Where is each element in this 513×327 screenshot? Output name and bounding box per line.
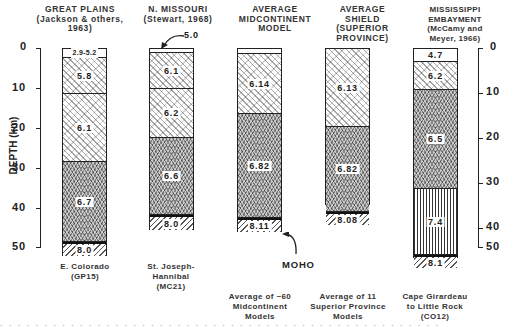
right-tick-label: 0 (490, 40, 497, 52)
right-tick-label: 30 (486, 175, 500, 187)
right-tick (478, 93, 483, 94)
caption-line: Superior Province (298, 302, 398, 312)
velocity-label: 8.0 (75, 245, 94, 255)
layer: 6.82 (238, 114, 281, 218)
layer-mantle: 8.0 (150, 215, 193, 230)
right-tick (478, 228, 483, 229)
velocity-label: 8.11 (247, 221, 271, 231)
caption-line: to Little Rock (385, 302, 485, 312)
caption-mississippi: Cape Girardeau to Little Rock (CO12) (385, 292, 485, 322)
caption-line: St. Joseph- (121, 262, 221, 272)
velocity-label: 6.5 (426, 134, 445, 144)
right-tick (478, 183, 483, 184)
velocity-label: 8.0 (162, 219, 181, 229)
layer: 7.4 (414, 189, 457, 255)
caption-shield: Average of 11 Superior Province Models (298, 292, 398, 322)
velocity-label: 6.2 (162, 108, 181, 118)
velocity-label: 7.4 (426, 217, 445, 227)
caption-line: (MC21) (121, 282, 221, 292)
velocity-label: 8.08 (335, 215, 360, 225)
caption-line: Average of 11 (298, 292, 398, 302)
layer-mantle: 8.0 (63, 242, 106, 256)
title-line: 1963) (25, 24, 135, 34)
title-line: PROVINCE) (310, 34, 415, 44)
right-tick (478, 48, 483, 49)
caption-n-missouri: St. Joseph- Hannibal (MC21) (121, 262, 221, 292)
right-tick-label: 50 (486, 240, 500, 252)
layer: 6.5 (414, 90, 457, 189)
caption-line: E. Colorado (35, 262, 135, 272)
velocity-label: 6.13 (335, 83, 360, 93)
layer: 6.13 (326, 49, 369, 127)
annotation-5-0: 5.0 (184, 30, 199, 40)
layer: 6.1 (150, 53, 193, 89)
left-tick (36, 247, 41, 248)
truncated-footer-text: · · · · · · · · · · · · · · · · · · · · … (0, 321, 513, 327)
layer-mantle: 8.08 (326, 212, 369, 225)
title-line: MISSISSIPPI (405, 5, 505, 15)
left-tick-label: 10 (12, 81, 26, 93)
layer: 6.7 (63, 162, 106, 242)
velocity-label: 6.6 (162, 171, 181, 181)
left-tick-label: 0 (20, 40, 27, 52)
velocity-label: 6.7 (75, 197, 94, 207)
moho-label: MOHO (282, 259, 315, 270)
caption-line: (GP15) (35, 272, 135, 282)
left-tick (36, 168, 41, 169)
arrow-icon (158, 32, 186, 50)
right-tick-label: 20 (486, 130, 500, 142)
column-title-great-plains: GREAT PLAINS (Jackson & others, 1963) (25, 5, 135, 34)
column-shield: 6.13 6.82 8.08 (325, 48, 370, 205)
layer: 5.8 (63, 58, 106, 94)
left-tick-label: 30 (12, 161, 26, 173)
title-line: (Stewart, 1968) (128, 15, 228, 25)
layer: 6.2 (150, 89, 193, 138)
layer: 6.1 (63, 94, 106, 162)
velocity-label: 6.1 (162, 66, 181, 76)
caption-midcontinent: Average of ~60 Midcontinent Models (210, 292, 310, 322)
caption-line: Cape Girardeau (385, 292, 485, 302)
left-tick (36, 208, 41, 209)
left-tick-label: 40 (12, 201, 26, 213)
left-tick-label: 20 (12, 121, 26, 133)
moho-arrow-icon (282, 232, 302, 256)
layer: 6.14 (238, 54, 281, 114)
velocity-label: 6.2 (426, 71, 445, 81)
layer: 6.2 (414, 62, 457, 90)
layer: 2.9-5.2 (63, 49, 106, 58)
layer-mantle: 8.1 (414, 255, 457, 268)
layer: 6.6 (150, 138, 193, 215)
caption-line: Average of ~60 (210, 292, 310, 302)
caption-line: Midcontinent (210, 302, 310, 312)
column-title-n-missouri: N. MISSOURI (Stewart, 1968) (128, 5, 228, 24)
column-n-missouri: 6.1 6.2 6.6 8.0 (149, 48, 194, 230)
caption-line: Hannibal (121, 272, 221, 282)
left-tick-label: 50 (12, 240, 26, 252)
velocity-label: 4.7 (426, 50, 445, 60)
left-axis-line (40, 48, 41, 248)
column-title-shield: AVERAGE SHIELD (SUPERIOR PROVINCE) (310, 5, 415, 43)
velocity-label: 8.1 (426, 258, 445, 268)
column-midcontinent: 6.14 6.82 8.11 (237, 48, 282, 232)
velocity-label: 6.1 (75, 123, 94, 133)
column-great-plains: 2.9-5.2 5.8 6.1 6.7 8.0 (62, 48, 107, 256)
left-tick (36, 88, 41, 89)
right-tick (478, 138, 483, 139)
right-tick-label: 40 (486, 220, 500, 232)
velocity-label: 6.14 (247, 79, 272, 89)
layer: 4.7 (414, 49, 457, 62)
column-title-mississippi: MISSISSIPPI EMBAYMENT (McCamy and Meyer,… (405, 5, 505, 43)
right-axis-line (478, 48, 479, 248)
velocity-label: 2.9-5.2 (71, 48, 99, 58)
caption-great-plains: E. Colorado (GP15) (35, 262, 135, 282)
right-tick-label: 10 (486, 85, 500, 97)
layer-mantle: 8.11 (238, 218, 281, 232)
velocity-label: 6.82 (247, 161, 272, 171)
right-tick (478, 247, 483, 248)
title-line: (McCamy and (405, 24, 505, 34)
velocity-label: 6.82 (335, 164, 360, 174)
velocity-label: 5.8 (75, 71, 94, 81)
title-line: EMBAYMENT (405, 15, 505, 25)
left-tick (36, 48, 41, 49)
column-mississippi: 4.7 6.2 6.5 7.4 8.1 (413, 48, 458, 258)
